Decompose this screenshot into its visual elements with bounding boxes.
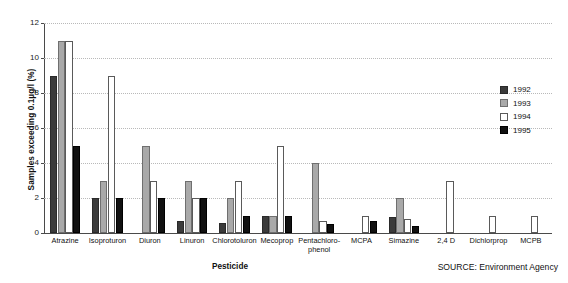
bar-1993-isoproturon	[100, 181, 107, 234]
x-category-label: MCPB	[504, 237, 558, 246]
bar-group	[219, 23, 250, 233]
legend-swatch-1994	[500, 113, 508, 121]
legend-label: 1994	[513, 112, 531, 121]
bar-group	[431, 23, 462, 233]
y-tick-label: 12	[5, 18, 39, 27]
bar-1993-pentachloro-phenol	[312, 163, 319, 233]
bar-1995-chlorotoluron	[243, 216, 250, 234]
y-tick-mark	[41, 23, 44, 24]
y-tick-mark	[41, 198, 44, 199]
bar-1993-diuron	[142, 146, 149, 234]
bar-group	[304, 23, 335, 233]
bar-1992-simazine	[389, 217, 396, 233]
bar-1992-atrazine	[50, 76, 57, 234]
bar-1992-isoproturon	[92, 198, 99, 233]
legend-label: 1992	[513, 85, 531, 94]
y-tick-mark	[41, 93, 44, 94]
bar-group	[177, 23, 208, 233]
x-axis-title: Pesticide	[212, 262, 248, 271]
bar-1994-mcpa	[362, 216, 369, 234]
y-tick-label: 2	[5, 193, 39, 202]
y-tick-mark	[41, 163, 44, 164]
bar-group	[346, 23, 377, 233]
legend-label: 1993	[513, 99, 531, 108]
bar-1994-diuron	[150, 181, 157, 234]
bar-1994-atrazine	[65, 41, 72, 234]
bar-1994-dichlorprop	[489, 216, 496, 234]
bar-group	[50, 23, 81, 233]
bar-1994-mcpb	[531, 216, 538, 234]
legend-label: 1995	[513, 126, 531, 135]
bar-1993-chlorotoluron	[227, 198, 234, 233]
bar-1995-linuron	[200, 198, 207, 233]
bar-1995-isoproturon	[116, 198, 123, 233]
legend-swatch-1995	[500, 126, 508, 134]
bar-1995-atrazine	[73, 146, 80, 234]
y-tick-label: 10	[5, 53, 39, 62]
legend-item-1993: 1993	[500, 97, 562, 111]
bar-1994-linuron	[192, 198, 199, 233]
bar-1995-diuron	[158, 198, 165, 233]
bar-1992-linuron	[177, 221, 184, 233]
bar-1993-linuron	[185, 181, 192, 234]
legend-item-1992: 1992	[500, 83, 562, 97]
bar-1995-mcpa	[370, 221, 377, 233]
bar-1994-simazine	[404, 219, 411, 233]
bar-group	[92, 23, 123, 233]
bar-1994-2-4-d	[446, 181, 453, 234]
legend-swatch-1992	[500, 86, 508, 94]
bar-1993-simazine	[396, 198, 403, 233]
bar-1992-chlorotoluron	[219, 223, 226, 234]
y-tick-mark	[41, 58, 44, 59]
bar-group	[262, 23, 293, 233]
bar-1992-mecoprop	[262, 216, 269, 234]
plot-area	[44, 23, 552, 233]
x-axis-line	[44, 233, 552, 234]
y-tick-label: 6	[5, 123, 39, 132]
bar-1993-mecoprop	[269, 216, 276, 234]
y-tick-label: 8	[5, 88, 39, 97]
y-tick-mark	[41, 128, 44, 129]
bar-1994-mecoprop	[277, 146, 284, 234]
bar-1995-mecoprop	[285, 216, 292, 234]
bar-1995-pentachloro-phenol	[327, 224, 334, 233]
legend-item-1994: 1994	[500, 110, 562, 124]
legend-swatch-1993	[500, 99, 508, 107]
bar-1994-pentachloro-phenol	[319, 221, 326, 233]
bar-1995-simazine	[412, 226, 419, 233]
y-tick-label: 0	[5, 228, 39, 237]
legend: 1992199319941995	[500, 83, 562, 137]
bar-group	[389, 23, 420, 233]
bar-1993-atrazine	[58, 41, 65, 234]
y-tick-label: 4	[5, 158, 39, 167]
legend-item-1995: 1995	[500, 124, 562, 138]
pesticide-bar-chart: Samples exceeding 0.1µg/l (%) 024681012 …	[0, 0, 568, 283]
source-note: SOURCE: Environment Agency	[438, 262, 558, 272]
bar-1994-isoproturon	[108, 76, 115, 234]
bar-1994-chlorotoluron	[235, 181, 242, 234]
bar-group	[135, 23, 166, 233]
y-tick-mark	[41, 233, 44, 234]
